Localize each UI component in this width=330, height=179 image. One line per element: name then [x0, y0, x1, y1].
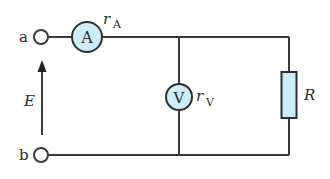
ammeter: A r A	[72, 10, 122, 52]
resistor: R	[282, 72, 316, 118]
terminal-b: b	[19, 146, 48, 164]
voltmeter-symbol: V	[173, 89, 186, 107]
resistor-label: R	[303, 86, 315, 104]
terminal-a-circle	[34, 30, 48, 44]
terminal-b-circle	[34, 148, 48, 162]
emf-label: E	[23, 92, 35, 110]
ammeter-resistance-label: r	[103, 10, 111, 28]
terminal-b-label: b	[19, 146, 29, 164]
voltmeter-resistance-label: r	[196, 87, 204, 105]
terminal-a-label: a	[19, 28, 28, 46]
circuit-diagram: a b E A r A V r V R	[0, 0, 330, 179]
voltmeter: V r V	[166, 84, 215, 110]
arrow-up-icon	[38, 60, 47, 72]
resistor-icon	[282, 72, 297, 118]
terminal-a: a	[19, 28, 48, 46]
ammeter-symbol: A	[80, 28, 93, 47]
voltmeter-resistance-subscript: V	[205, 96, 215, 109]
emf-arrow: E	[23, 60, 47, 135]
ammeter-resistance-subscript: A	[112, 18, 122, 31]
